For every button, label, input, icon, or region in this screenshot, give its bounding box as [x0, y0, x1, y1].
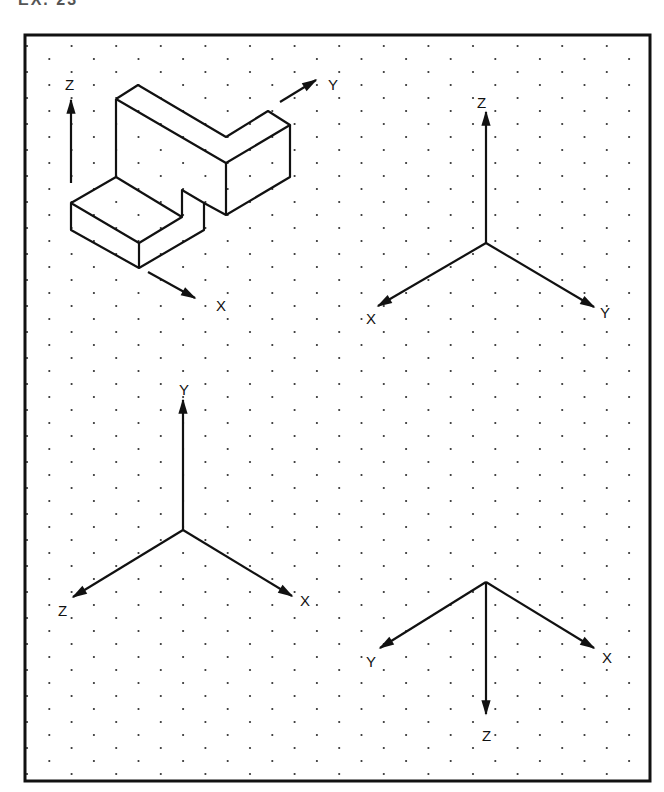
object-x-label: X: [216, 297, 226, 314]
object-y-label: Y: [328, 76, 338, 93]
axis-label-z: Z: [477, 94, 486, 111]
object-z-label: Z: [65, 76, 74, 93]
y-arrow: [280, 80, 316, 102]
isometric-object: [71, 85, 290, 268]
x-arrow: [148, 272, 195, 298]
axis-set-bottom-right: [380, 582, 594, 714]
axis-label-z: Z: [58, 602, 67, 619]
axis-label-x: X: [366, 310, 376, 327]
drawing-frame: [25, 35, 650, 781]
axis-label-y: Y: [366, 653, 376, 670]
axis-label-x: X: [300, 592, 310, 609]
axis-label-x: X: [602, 649, 612, 666]
isometric-drawing-sheet: Z Y X Z X Y Y Z X Y X Z: [0, 0, 664, 792]
axis-set-top-right: [378, 112, 594, 307]
axis-label-z: Z: [482, 727, 491, 744]
axis-label-y: Y: [600, 304, 610, 321]
axis-set-bottom-left: [73, 400, 292, 597]
object-axis-arrows: [71, 80, 316, 298]
axis-label-y: Y: [179, 381, 189, 398]
